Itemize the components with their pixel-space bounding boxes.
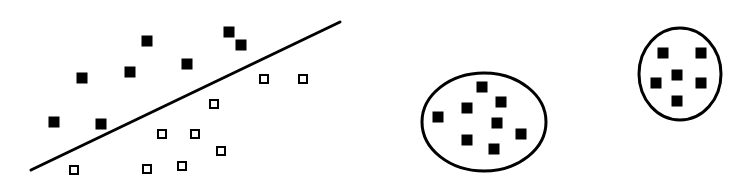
filled-square-point <box>236 40 247 51</box>
classification-panel <box>31 22 340 174</box>
cluster-point <box>672 70 683 81</box>
clustering-panel <box>422 28 721 171</box>
decision-boundary-line <box>31 22 340 170</box>
cluster-point <box>492 118 503 129</box>
cluster-point <box>696 48 707 59</box>
filled-square-point <box>224 27 235 38</box>
diagram-svg <box>0 0 753 183</box>
cluster-point <box>496 97 507 108</box>
cluster-point <box>462 103 473 114</box>
hollow-square-point <box>210 100 218 108</box>
hollow-square-point <box>191 130 199 138</box>
cluster-point <box>696 78 707 89</box>
cluster-1 <box>422 73 546 171</box>
filled-square-point <box>49 117 60 128</box>
hollow-square-point <box>217 147 225 155</box>
cluster-2 <box>639 28 721 120</box>
hollow-square-point <box>143 165 151 173</box>
cluster-point <box>462 135 473 146</box>
hollow-square-point <box>260 75 268 83</box>
hollow-square-point <box>299 75 307 83</box>
diagram-canvas <box>0 0 753 183</box>
hollow-square-point <box>158 130 166 138</box>
cluster-point <box>658 48 669 59</box>
filled-square-point <box>77 73 88 84</box>
cluster-point <box>477 82 488 93</box>
cluster-point <box>433 112 444 123</box>
filled-square-point <box>182 59 193 70</box>
cluster-point <box>516 129 527 140</box>
hollow-square-point <box>178 162 186 170</box>
filled-square-point <box>125 67 136 78</box>
cluster-point <box>651 78 662 89</box>
hollow-square-point <box>70 166 78 174</box>
filled-square-point <box>142 36 153 47</box>
cluster-point <box>489 144 500 155</box>
filled-square-point <box>96 119 107 130</box>
cluster-point <box>672 96 683 107</box>
